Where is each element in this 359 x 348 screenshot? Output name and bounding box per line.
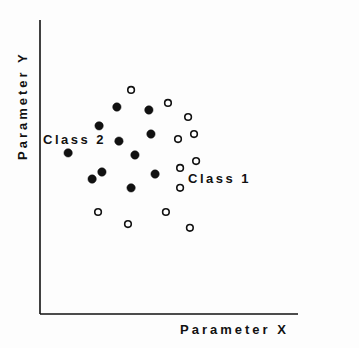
class-1-point [175, 136, 182, 143]
class-1-point [128, 87, 135, 94]
class-1-point [193, 158, 200, 165]
class-1-point [165, 100, 172, 107]
class-2-point [151, 170, 159, 178]
class-1-point [191, 131, 198, 138]
class-2-point [147, 130, 155, 138]
class-2-point [64, 149, 72, 157]
y-axis-label: Parameter Y [15, 51, 30, 160]
class-2-point [95, 122, 103, 130]
class-2-point [115, 137, 123, 145]
class-2-point [127, 184, 135, 192]
class-2-point [88, 175, 96, 183]
class-1-point [185, 114, 192, 121]
class-2-label: Class 2 [43, 132, 106, 147]
class-1-point [177, 185, 184, 192]
class-2-point [145, 106, 153, 114]
class-1-point [95, 209, 102, 216]
class-2-point [131, 151, 139, 159]
class-1-label: Class 1 [188, 171, 251, 186]
class-1-point [125, 221, 132, 228]
x-axis-label: Parameter X [180, 322, 289, 337]
axes [40, 20, 298, 314]
data-points [64, 87, 199, 231]
class-1-point [177, 165, 184, 172]
class-1-point [163, 209, 170, 216]
class-1-point [187, 225, 194, 232]
class-2-point [113, 103, 121, 111]
class-2-point [98, 168, 106, 176]
scatter-chart: Parameter X Parameter Y Class 2 Class 1 [0, 0, 359, 348]
